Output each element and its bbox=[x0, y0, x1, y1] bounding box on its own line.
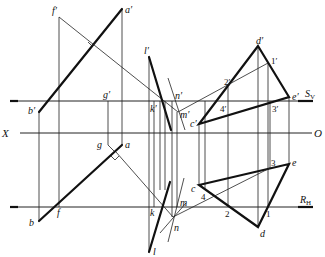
projection-diagram bbox=[0, 0, 325, 257]
auxiliary-line-front bbox=[168, 78, 185, 130]
line-n-3 bbox=[173, 168, 270, 217]
auxiliary-line-top bbox=[168, 178, 184, 242]
line-l bbox=[149, 182, 170, 252]
line-ab bbox=[39, 145, 122, 221]
triangle-cde-top bbox=[199, 164, 289, 227]
line-a-prime-b-prime bbox=[39, 9, 122, 112]
right-angle-marker-top bbox=[111, 156, 119, 160]
triangle-cde-front bbox=[199, 46, 289, 124]
line-m-prime-1-prime bbox=[178, 63, 268, 112]
